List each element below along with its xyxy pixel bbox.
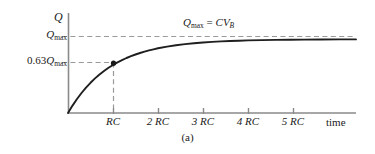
- y-tick-label-qmax-subscript: max: [54, 33, 67, 42]
- x-tick-label-3rc: 3 RC: [192, 116, 214, 127]
- annotation-c-symbol: C: [216, 16, 223, 28]
- x-tick-label-rc: RC: [106, 116, 120, 127]
- y-axis-title: Q: [54, 11, 63, 23]
- rc-point-marker: [111, 61, 116, 66]
- y-tick-label-qmax-symbol: Q: [46, 28, 54, 40]
- annotation-v-subscript: B: [230, 21, 235, 30]
- y-tick-label-063qmax-subscript: max: [54, 59, 67, 68]
- y-tick-label-063qmax-prefix: 0.63: [27, 54, 46, 66]
- annotation-q-symbol: Q: [183, 16, 191, 28]
- x-tick-label-2rc: 2 RC: [147, 116, 169, 127]
- y-tick-label-063qmax-symbol: Q: [46, 54, 54, 66]
- y-tick-label-qmax: Qmax: [46, 29, 67, 41]
- annotation-q-subscript: max: [191, 21, 204, 30]
- figure-caption: (a): [0, 131, 375, 143]
- y-tick-label-063qmax: 0.63Qmax: [27, 55, 67, 67]
- annotation-equals: =: [204, 16, 216, 28]
- capacitor-charging-figure: Q Qmax 0.63Qmax Qmax = CVB RC 2 RC 3 RC …: [0, 0, 375, 154]
- annotation-v-symbol: V: [223, 16, 230, 28]
- x-axis-title: time: [326, 117, 346, 128]
- x-tick-label-5rc: 5 RC: [282, 116, 304, 127]
- x-tick-label-4rc: 4 RC: [237, 116, 259, 127]
- charging-curve: [68, 39, 356, 113]
- asymptote-annotation: Qmax = CVB: [183, 17, 234, 29]
